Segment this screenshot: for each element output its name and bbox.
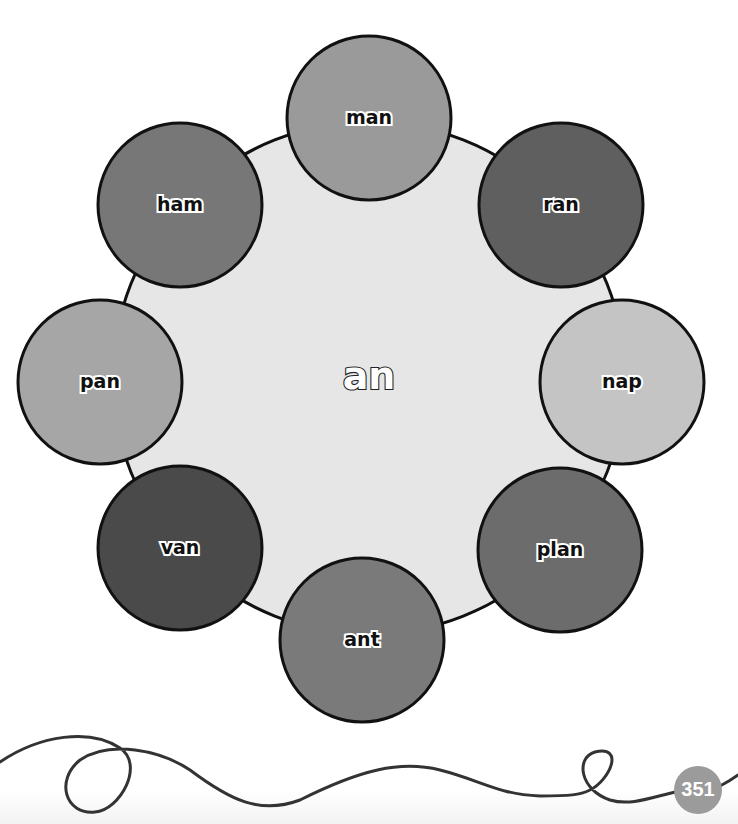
decorative-ribbon: [0, 737, 738, 813]
word-circle-ran: ran: [479, 123, 643, 287]
word-label: man: [346, 106, 392, 128]
word-wheel-page: manrannapplanantvanpanham an 351: [0, 0, 738, 824]
word-circle-nap: nap: [540, 300, 704, 464]
word-label: ant: [344, 628, 379, 650]
word-circle-ant: ant: [280, 558, 444, 722]
word-label: pan: [80, 370, 120, 392]
center-word-family: an: [343, 354, 396, 398]
word-label: nap: [602, 370, 642, 392]
word-label: ran: [543, 193, 579, 215]
page-number-badge: 351: [674, 766, 722, 814]
word-label: ham: [157, 193, 203, 215]
word-circle-pan: pan: [18, 300, 182, 464]
word-label: van: [161, 536, 200, 558]
word-circle-ham: ham: [98, 123, 262, 287]
word-circle-man: man: [287, 36, 451, 200]
word-label: plan: [537, 538, 583, 560]
word-circle-van: van: [98, 466, 262, 630]
word-circle-plan: plan: [478, 468, 642, 632]
page-number: 351: [681, 778, 714, 800]
